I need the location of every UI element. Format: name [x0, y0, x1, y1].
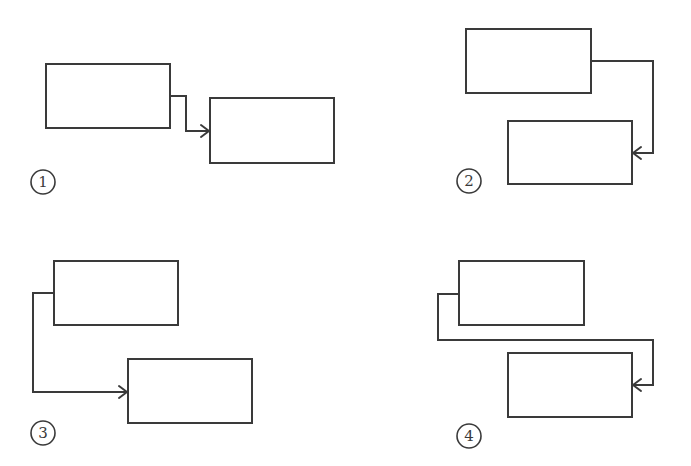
panel-3: 3: [31, 261, 252, 445]
target-box: [128, 359, 252, 423]
badge-label: 2: [464, 172, 474, 190]
source-box: [46, 64, 170, 128]
target-box: [508, 353, 632, 417]
target-box: [508, 121, 632, 184]
panel-1: 1: [31, 64, 334, 194]
badge-label: 4: [464, 427, 474, 445]
panel-4: 4: [438, 261, 653, 448]
target-box: [210, 98, 334, 163]
panel-2: 2: [457, 29, 653, 193]
badge-label: 3: [38, 424, 48, 442]
source-box: [466, 29, 591, 93]
connector-routing-diagram: 1 2 3 4: [0, 0, 691, 466]
source-box: [54, 261, 178, 325]
badge-label: 1: [38, 173, 48, 191]
source-box: [459, 261, 584, 325]
